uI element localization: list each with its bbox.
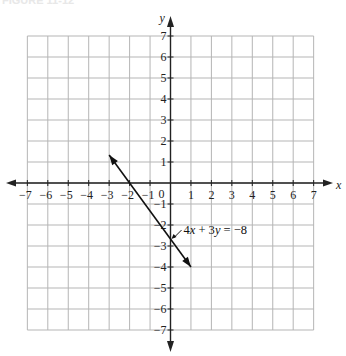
x-tick-label: −4 [80,188,93,202]
y-tick-label: 5 [161,71,167,85]
y-tick-label: −4 [154,260,167,274]
y-tick-label: 2 [161,134,167,148]
y-tick-label: 4 [161,92,167,106]
y-tick-label: −5 [154,281,167,295]
coordinate-plane: xy −7−6−5−4−3−2−1012345677654321−1−2−3−4… [0,0,346,356]
y-tick-label: 3 [161,113,167,127]
x-tick-label: 3 [229,188,235,202]
x-tick-label: −6 [39,188,52,202]
x-tick-label: −1 [142,188,155,202]
y-tick-label: −1 [154,197,167,211]
x-tick-label: −7 [19,188,32,202]
x-axis-label: x [335,178,342,192]
y-axis-label: y [159,11,166,25]
x-axis-left-arrow-icon [6,180,16,187]
equation-label: 4x + 3y = −8 [184,223,248,237]
y-tick-label: −6 [154,302,167,316]
y-axis-down-arrow-icon [167,341,174,352]
line-arrow-down-icon [182,257,191,267]
y-tick-label: −3 [154,239,167,253]
y-tick-label: 7 [161,29,167,43]
y-tick-label: −7 [154,323,167,337]
x-axis-right-arrow-icon [323,180,333,187]
x-tick-label: −2 [121,188,134,202]
line-arrow-up-icon [109,155,118,165]
x-tick-label: −5 [60,188,73,202]
axes: xy [6,11,342,352]
y-tick-label: 1 [161,155,167,169]
x-tick-label: 5 [270,188,276,202]
x-tick-label: 1 [188,188,194,202]
x-tick-label: −3 [101,188,114,202]
y-axis-up-arrow-icon [167,16,174,27]
y-tick-label: 6 [161,50,167,64]
x-tick-label: 4 [249,188,255,202]
x-tick-label: 2 [208,188,214,202]
x-tick-label: 7 [311,188,317,202]
x-tick-label: 6 [290,188,296,202]
